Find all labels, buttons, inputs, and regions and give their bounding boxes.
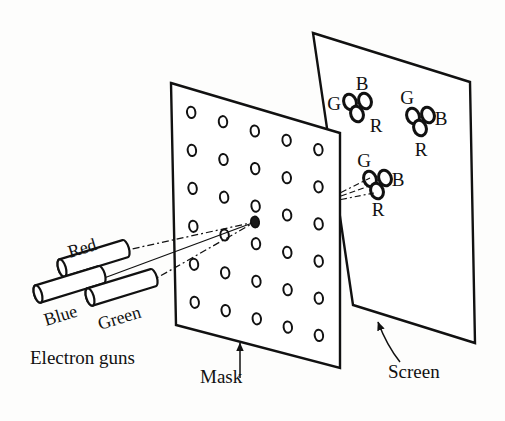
figure-canvas: GBRGBRGBR RedBlueGreen Mask Screen Elect…	[0, 0, 505, 421]
mask-hole	[282, 134, 292, 146]
mask-label: Mask	[200, 366, 243, 387]
mask-hole	[219, 191, 229, 203]
phosphor-label-r: R	[415, 139, 428, 160]
mask-hole	[314, 255, 324, 267]
mask-hole	[282, 246, 292, 258]
gun-label-blue: Blue	[41, 301, 79, 330]
mask-hole	[282, 209, 292, 221]
screen-callout-arrow	[378, 322, 400, 362]
phosphor-label-b: B	[435, 108, 448, 129]
phosphor-label-b: B	[392, 169, 405, 190]
mask-hole	[187, 144, 197, 156]
mask-hole	[313, 143, 323, 155]
mask-hole	[252, 313, 262, 325]
mask-hole	[314, 329, 324, 341]
mask-callout: Mask	[200, 343, 243, 387]
mask-hole	[283, 284, 293, 296]
mask-hole	[218, 116, 228, 128]
phosphor-label-g: G	[400, 87, 414, 108]
electron-gun-layer: RedBlueGreen	[32, 234, 160, 334]
phosphor-label-g: G	[357, 150, 371, 171]
phosphor-label-b: B	[356, 73, 369, 94]
mask-hole	[282, 172, 292, 184]
mask-hole	[250, 162, 260, 174]
mask-hole	[186, 106, 196, 118]
mask-hole	[283, 321, 293, 333]
phosphor-label-g: G	[327, 93, 341, 114]
illuminated-mask-hole	[250, 216, 260, 228]
mask-hole	[190, 296, 200, 308]
mask-hole	[251, 238, 261, 250]
mask-hole	[219, 153, 229, 165]
mask-hole	[221, 304, 231, 316]
mask-hole	[188, 220, 198, 232]
mask-hole	[250, 125, 260, 137]
electron-guns-label: Electron guns	[30, 347, 135, 368]
mask-hole	[188, 182, 198, 194]
mask-hole	[251, 275, 261, 287]
gun-label-green: Green	[95, 302, 143, 334]
mask-hole	[220, 267, 230, 279]
crt-shadow-mask-figure: GBRGBRGBR RedBlueGreen Mask Screen Elect…	[0, 0, 505, 421]
mask-hole	[314, 181, 324, 193]
phosphor-label-r: R	[370, 115, 383, 136]
phosphor-label-r: R	[372, 199, 385, 220]
mask-hole	[314, 292, 324, 304]
screen-callout: Screen	[378, 322, 440, 382]
screen-label: Screen	[388, 361, 440, 382]
mask-hole	[314, 218, 324, 230]
mask-hole	[189, 258, 199, 270]
mask-hole	[251, 200, 261, 212]
